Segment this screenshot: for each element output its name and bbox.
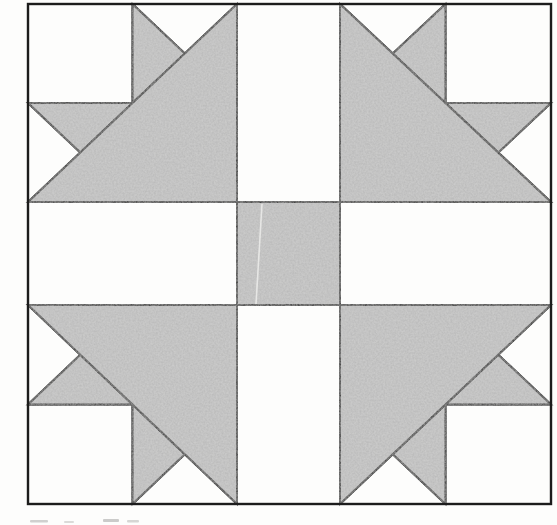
caption-mark-2 — [64, 521, 74, 523]
quilt-block-diagram — [0, 0, 557, 525]
scanned-page — [0, 0, 557, 525]
caption-mark-1 — [30, 520, 48, 523]
top-left-unit-corner-square-patch — [28, 4, 133, 103]
center-square-patch — [237, 202, 340, 305]
bottom-left-unit-corner-square-patch — [28, 405, 133, 505]
caption-mark-4 — [127, 520, 139, 523]
caption-mark-3 — [103, 519, 119, 522]
bottom-right-unit-corner-square-patch — [446, 405, 552, 505]
top-right-unit-corner-square-patch — [446, 4, 552, 103]
